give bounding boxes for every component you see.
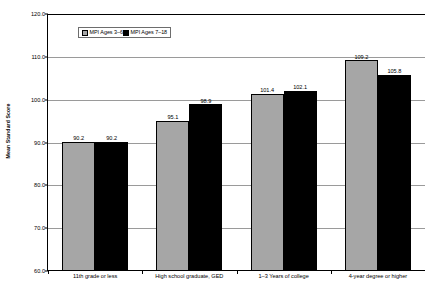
bar-value-label: 90.2 bbox=[106, 135, 117, 141]
x-axis-label-1: High school graduate, GED bbox=[142, 273, 236, 279]
legend-label-0: MPI Ages 3–6 bbox=[90, 30, 124, 35]
y-tick-label: 100.0 bbox=[31, 97, 45, 103]
bar-group: 95.198.9 bbox=[142, 14, 236, 271]
bar-value-label: 101.4 bbox=[260, 87, 274, 93]
legend-label-1: MPI Ages 7–18 bbox=[131, 30, 168, 35]
bar-series-1: 98.9 bbox=[189, 104, 222, 271]
bar-series-1: 102.1 bbox=[284, 91, 317, 271]
x-tick-mark bbox=[48, 271, 49, 274]
bar-group: 101.4102.1 bbox=[237, 14, 331, 271]
bar-series-1: 90.2 bbox=[95, 142, 128, 271]
x-axis-label-3: 4-year degree or higher bbox=[331, 273, 425, 279]
y-tick-label: 60.0 bbox=[34, 268, 45, 274]
y-tick-label: 80.0 bbox=[34, 182, 45, 188]
bar-value-label: 95.1 bbox=[167, 114, 178, 120]
bar-value-label: 98.9 bbox=[200, 98, 211, 104]
bar-series-1: 105.8 bbox=[378, 75, 411, 271]
x-axis-label-0: 11th grade or less bbox=[48, 273, 142, 279]
bar-group: 90.290.2 bbox=[48, 14, 142, 271]
x-axis-label-2: 1–3 Years of college bbox=[237, 273, 331, 279]
chart-legend: MPI Ages 3–6 MPI Ages 7–18 bbox=[78, 27, 171, 38]
bars-layer: 90.290.295.198.9101.4102.1109.2105.8 bbox=[48, 14, 425, 271]
legend-swatch-icon-1 bbox=[123, 30, 129, 36]
legend-item-0: MPI Ages 3–6 bbox=[82, 30, 123, 36]
y-tick-label: 110.0 bbox=[31, 54, 45, 60]
bar-value-label: 109.2 bbox=[354, 54, 368, 60]
y-tick-label: 120.0 bbox=[31, 11, 45, 17]
y-axis-title: Mean Standard Score bbox=[2, 0, 14, 262]
bar-value-label: 90.2 bbox=[73, 135, 84, 141]
y-tick-label: 70.0 bbox=[34, 225, 45, 231]
legend-swatch-icon-0 bbox=[82, 30, 88, 36]
y-tick-label: 90.0 bbox=[34, 140, 45, 146]
x-tick-mark bbox=[331, 271, 332, 274]
x-tick-mark bbox=[142, 271, 143, 274]
bar-group: 109.2105.8 bbox=[331, 14, 425, 271]
bar-series-0: 90.2 bbox=[62, 142, 95, 271]
bar-series-0: 95.1 bbox=[156, 121, 189, 271]
y-axis-title-text: Mean Standard Score bbox=[5, 104, 11, 159]
bar-series-0: 101.4 bbox=[251, 94, 284, 271]
x-tick-mark bbox=[237, 271, 238, 274]
legend-item-1: MPI Ages 7–18 bbox=[123, 30, 167, 36]
bar-value-label: 102.1 bbox=[293, 84, 307, 90]
bar-series-0: 109.2 bbox=[345, 60, 378, 271]
bar-chart: Mean Standard Score 120.0110.0100.090.08… bbox=[0, 0, 434, 296]
bar-value-label: 105.8 bbox=[387, 68, 401, 74]
